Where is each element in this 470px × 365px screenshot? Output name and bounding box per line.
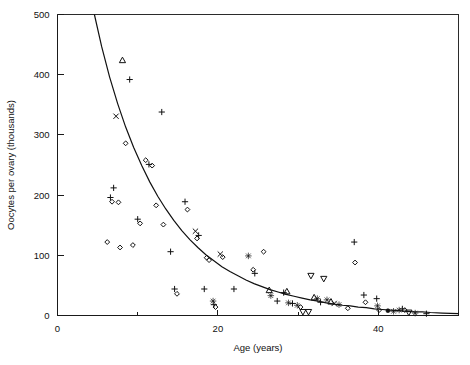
marker-star: [390, 308, 397, 315]
marker-diamond: [118, 245, 123, 250]
marker-plus: [201, 286, 207, 292]
y-axis-ticks: 0100200300400500: [34, 9, 64, 321]
plot-border: [58, 15, 459, 316]
x-tick-label: 40: [373, 323, 384, 334]
data-points: [105, 57, 430, 317]
marker-triangle-down: [305, 309, 311, 315]
marker-star: [210, 298, 217, 305]
marker-plus: [159, 109, 165, 115]
marker-diamond: [105, 240, 110, 245]
marker-star: [245, 253, 252, 260]
marker-plus: [231, 286, 237, 292]
plot-frame: [58, 15, 459, 316]
marker-plus: [167, 249, 173, 255]
y-axis-label: Oocytes per ovary (thousands): [5, 100, 16, 230]
plot-canvas: 02040 0100200300400500 Age (years) Oocyt…: [0, 0, 470, 365]
oocyte-age-scatter-figure: 02040 0100200300400500 Age (years) Oocyt…: [0, 0, 470, 365]
y-tick-label: 300: [34, 129, 50, 140]
marker-diamond: [185, 207, 190, 212]
marker-triangle-up: [311, 294, 317, 300]
marker-star: [314, 295, 321, 302]
marker-diamond: [353, 260, 358, 265]
marker-diamond: [138, 221, 143, 226]
marker-triangle-up: [119, 57, 125, 63]
marker-diamond: [161, 222, 166, 227]
marker-star: [336, 301, 343, 308]
y-tick-label: 200: [34, 190, 50, 201]
marker-diamond: [123, 141, 128, 146]
marker-diamond: [175, 291, 180, 296]
marker-circle: [386, 309, 390, 313]
marker-diamond: [363, 300, 368, 305]
marker-diamond: [345, 306, 350, 311]
marker-triangle-up: [284, 288, 290, 294]
marker-star: [412, 310, 419, 317]
marker-diamond: [261, 249, 266, 254]
y-tick-label: 400: [34, 69, 50, 80]
marker-plus: [374, 296, 380, 302]
x-axis-ticks: 02040: [55, 310, 459, 334]
y-tick-label: 100: [34, 250, 50, 261]
y-tick-label: 0: [44, 310, 49, 321]
x-tick-label: 0: [55, 323, 60, 334]
marker-plus: [351, 239, 357, 245]
marker-cross: [193, 229, 198, 234]
marker-triangle-down: [321, 276, 327, 282]
marker-triangle-down: [300, 309, 306, 315]
marker-cross: [113, 114, 118, 119]
x-axis-label: Age (years): [233, 342, 282, 353]
marker-plus: [274, 298, 280, 304]
marker-star: [396, 307, 403, 314]
marker-diamond: [116, 200, 121, 205]
marker-diamond: [143, 158, 148, 163]
marker-star: [268, 292, 275, 299]
y-tick-label: 500: [34, 9, 50, 20]
x-tick-label: 20: [213, 323, 224, 334]
marker-plus: [196, 232, 202, 238]
marker-plus: [127, 76, 133, 82]
marker-plus: [182, 199, 188, 205]
marker-star: [285, 300, 292, 307]
marker-plus: [361, 292, 367, 298]
marker-triangle-down: [308, 273, 314, 279]
marker-diamond: [154, 203, 159, 208]
marker-plus: [111, 185, 117, 191]
marker-diamond: [130, 243, 135, 248]
